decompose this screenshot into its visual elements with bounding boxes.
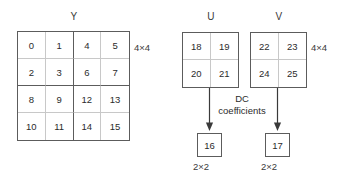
matrix-cell: 14 [74, 113, 102, 140]
down-arrow-icon [273, 88, 282, 132]
dimension-label-y: 4×4 [134, 42, 150, 53]
matrix-cell: 23 [279, 33, 307, 60]
matrix-cell: 24 [251, 60, 279, 87]
matrix-y: 0 1 4 5 2 3 6 7 8 9 12 13 10 11 14 15 [17, 31, 130, 141]
matrix-cell: 15 [101, 113, 129, 140]
matrix-cell: 25 [279, 60, 307, 87]
matrix-cell: 5 [101, 32, 129, 59]
dc-caption-line-1: DC [211, 93, 273, 105]
matrix-cell: 4 [74, 32, 102, 59]
matrix-cell: 12 [74, 86, 102, 113]
matrix-cell: 13 [101, 86, 129, 113]
matrix-cell: 18 [183, 33, 211, 60]
matrix-cell: 11 [46, 113, 74, 140]
matrix-u: 18 19 20 21 [182, 32, 239, 88]
dimension-label-dc-u: 2×2 [193, 161, 209, 172]
matrix-cell: 2 [18, 59, 46, 86]
block-label-y: Y [44, 11, 104, 22]
matrix-cell: 10 [18, 113, 46, 140]
dc-coefficients-caption: DC coefficients [211, 93, 273, 116]
matrix-cell: 7 [101, 59, 129, 86]
block-label-u: U [183, 11, 239, 22]
matrix-cell: 8 [18, 86, 46, 113]
block-label-v: V [251, 11, 307, 22]
matrix-cell: 9 [46, 86, 74, 113]
dc-result-box-u: 16 [197, 133, 222, 157]
dimension-label-uv: 4×4 [311, 42, 327, 53]
matrix-cell: 3 [46, 59, 74, 86]
matrix-cell: 1 [46, 32, 74, 59]
matrix-v: 22 23 24 25 [250, 32, 307, 88]
matrix-cell: 20 [183, 60, 211, 87]
matrix-cell: 6 [74, 59, 102, 86]
dc-result-box-v: 17 [265, 133, 290, 157]
dc-caption-line-2: coefficients [211, 105, 273, 117]
matrix-cell: 22 [251, 33, 279, 60]
matrix-cell: 0 [18, 32, 46, 59]
dimension-label-dc-v: 2×2 [261, 161, 277, 172]
matrix-cell: 19 [211, 33, 239, 60]
matrix-cell: 21 [211, 60, 239, 87]
